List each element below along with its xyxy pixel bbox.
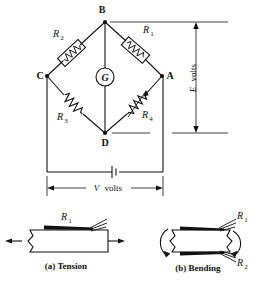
- wheatstone-bridge-group: B C A D G R 2 R 1 R 3 R 4: [36, 4, 228, 196]
- resistor-label-R3-letter: R: [56, 111, 63, 122]
- wire-C-to-R3: [47, 76, 64, 95]
- battery-symbol: [112, 166, 116, 178]
- dimension-E-label: E volts: [188, 63, 198, 93]
- node-label-B: B: [99, 4, 106, 15]
- wire-B-to-R1: [105, 22, 126, 41]
- bending-moment-arrow-right: [231, 231, 241, 258]
- circuit-figure: B C A D G R 2 R 1 R 3 R 4: [0, 0, 260, 288]
- tension-arrow-right: [108, 238, 125, 243]
- dimension-E-symbol: E: [188, 86, 198, 93]
- node-label-A: A: [166, 70, 174, 81]
- bending-label-R2-letter: R: [236, 257, 243, 268]
- tension-beam-group: R 1 (a) Tension: [5, 211, 125, 271]
- bending-label-R2: R 2: [236, 257, 248, 271]
- dimension-E-arrow-bottom: [193, 126, 198, 133]
- resistor-label-R1-letter: R: [142, 24, 149, 35]
- bending-label-R1: R 1: [236, 210, 248, 224]
- figure-container: B C A D G R 2 R 1 R 3 R 4: [0, 0, 260, 288]
- node-dot-A: [160, 74, 164, 78]
- wire-A-to-R4: [145, 76, 162, 95]
- tension-arrow-left: [5, 238, 22, 243]
- node-dot-D: [103, 131, 107, 135]
- tension-caption: (a) Tension: [45, 261, 87, 271]
- resistor-label-R2: R 2: [52, 28, 64, 42]
- node-label-D: D: [101, 137, 108, 148]
- wire-R1-to-A: [145, 59, 162, 76]
- tension-beam-body: [28, 230, 108, 252]
- bending-gauge-R2: [180, 252, 224, 256]
- bending-moment-arrow-left: [160, 229, 170, 258]
- tension-arrow-left-head: [5, 238, 12, 243]
- dimension-V-volts: V volts: [47, 176, 163, 196]
- resistor-R3-zigzag: [62, 92, 86, 117]
- tension-gauge-R1: [44, 226, 93, 231]
- dimension-E-unit: volts: [188, 63, 198, 81]
- resistor-label-R4-subscript: 4: [149, 115, 153, 123]
- node-dot-C: [45, 74, 49, 78]
- resistor-label-R3: R 3: [56, 111, 68, 125]
- tension-label-R1-subscript: 1: [68, 217, 72, 225]
- wire-B-to-R2: [80, 22, 105, 45]
- node-dot-B: [103, 20, 107, 24]
- dimension-E-arrow-top: [193, 22, 198, 29]
- dimension-V-arrow-right: [156, 186, 163, 191]
- node-label-C: C: [36, 70, 43, 81]
- bending-label-R1-subscript: 1: [244, 216, 248, 224]
- wire-R3-to-D: [83, 114, 105, 133]
- bending-gauge-R1: [180, 227, 224, 231]
- resistor-label-R2-letter: R: [52, 28, 59, 39]
- bridge-arm-C-D: [47, 76, 105, 133]
- wire-R4-to-D: [105, 114, 127, 133]
- dimension-V-label: V volts: [94, 183, 123, 193]
- bending-caption: (b) Bending: [175, 263, 221, 273]
- bending-beam-body: [170, 230, 232, 252]
- resistor-R1: [121, 37, 149, 64]
- dimension-V-arrow-left: [47, 186, 54, 191]
- wire-R2-to-C: [47, 61, 63, 76]
- bending-label-R1-letter: R: [236, 210, 243, 221]
- dimension-V-unit: volts: [105, 183, 123, 193]
- tension-label-R1: R 1: [60, 211, 72, 225]
- galvanometer-label: G: [101, 72, 109, 83]
- bending-beam-group: R 1 R 2 (b) Bending: [160, 210, 248, 273]
- bending-label-R2-subscript: 2: [244, 263, 248, 271]
- resistor-R2-body: [58, 39, 86, 66]
- resistor-label-R1-subscript: 1: [150, 30, 154, 38]
- dimension-V-symbol: V: [94, 183, 101, 193]
- bridge-arm-A-D: [105, 76, 162, 133]
- resistor-label-R4-letter: R: [141, 109, 148, 120]
- resistor-R3: [62, 92, 86, 117]
- resistor-label-R4: R 4: [141, 109, 153, 123]
- tension-arrow-right-head: [118, 238, 125, 243]
- resistor-R1-body: [121, 37, 149, 64]
- resistor-label-R3-subscript: 3: [64, 117, 68, 125]
- resistor-R2: [58, 39, 86, 66]
- tension-label-R1-letter: R: [60, 211, 67, 222]
- resistor-label-R2-subscript: 2: [60, 34, 64, 42]
- resistor-label-R1: R 1: [142, 24, 154, 38]
